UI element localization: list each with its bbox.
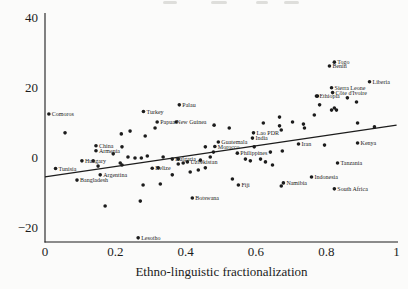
country-label: Belize [155, 165, 171, 171]
country-label: Papua New Guinea [160, 119, 207, 125]
data-point [204, 145, 208, 149]
country-label: Fiji [241, 182, 250, 188]
country-label: Iran [302, 141, 312, 147]
data-point [75, 178, 79, 182]
data-point [96, 164, 100, 168]
data-point [191, 196, 195, 200]
x-tick-label: 0 [42, 244, 49, 259]
data-point [278, 124, 282, 128]
data-point [236, 151, 240, 155]
country-label: Turkey [146, 109, 163, 115]
country-label: South Africa [337, 186, 368, 192]
data-point [373, 125, 377, 129]
data-point [136, 236, 140, 240]
data-point [176, 162, 180, 166]
data-point [118, 161, 122, 165]
data-point [178, 103, 182, 107]
data-point [212, 123, 216, 127]
data-point [368, 80, 372, 84]
country-label: Lao PDR [256, 130, 279, 136]
data-point [262, 121, 266, 125]
y-tick-label: −20 [18, 220, 38, 235]
data-point [153, 126, 157, 130]
data-point [291, 120, 295, 124]
country-label: Liberia [373, 79, 391, 85]
data-point [142, 110, 146, 114]
data-point [138, 199, 142, 203]
data-point [231, 177, 235, 181]
data-point [259, 157, 263, 161]
data-point [355, 100, 359, 104]
data-point [333, 187, 337, 191]
plot-area: 40200−2000.20.40.60.81ComorosTunisiaBang… [0, 0, 408, 289]
x-tick-label: 0.2 [107, 244, 123, 259]
data-point [159, 182, 163, 186]
data-point [279, 184, 283, 188]
country-label: Palau [182, 102, 195, 108]
data-point [146, 154, 150, 158]
country-label: Tanzania [341, 160, 363, 166]
x-axis-title: Ethno-linguistic fractionalization [45, 264, 398, 280]
country-label: Philippines [240, 150, 268, 156]
data-point [336, 161, 340, 165]
country-label: Argentina [103, 172, 127, 178]
country-label: Tunisia [59, 166, 77, 172]
data-point [161, 155, 165, 159]
data-point [331, 91, 335, 95]
data-point [278, 115, 282, 119]
data-point [356, 121, 360, 125]
data-point [269, 150, 273, 154]
country-label: Armenia [99, 148, 120, 154]
data-point [303, 126, 307, 130]
data-point [119, 132, 123, 136]
data-point [128, 129, 132, 133]
data-point [318, 103, 322, 107]
data-point [141, 183, 145, 187]
data-point [282, 181, 286, 185]
data-point [186, 160, 190, 164]
country-label: Namibia [286, 180, 307, 186]
y-tick-label: 0 [32, 150, 39, 165]
data-point [155, 120, 159, 124]
data-point [264, 160, 268, 164]
data-point [120, 145, 124, 149]
country-label: Bangladesh [80, 177, 108, 183]
data-point [150, 166, 154, 170]
y-tick-label: 20 [25, 80, 38, 95]
data-point [335, 108, 339, 112]
data-point [196, 168, 200, 172]
x-tick-label: 0.8 [318, 244, 334, 259]
data-point [313, 113, 317, 117]
country-label: Guatemala [221, 139, 247, 145]
data-point [302, 122, 306, 126]
data-point [204, 166, 208, 170]
data-point [237, 183, 241, 187]
country-label: Togo [337, 59, 349, 65]
data-point [346, 96, 350, 100]
data-point [170, 173, 174, 177]
country-label: Indonesia [315, 174, 339, 180]
data-point [63, 131, 67, 135]
data-point [98, 173, 102, 177]
y-tick-label: 40 [25, 10, 38, 25]
data-point [94, 149, 98, 153]
data-point [323, 143, 327, 147]
data-point [297, 142, 301, 146]
data-point [330, 86, 334, 90]
data-point [310, 175, 314, 179]
data-point [227, 126, 231, 130]
data-point [54, 167, 58, 171]
data-point [126, 155, 130, 159]
data-point [80, 159, 84, 163]
data-point [143, 134, 147, 138]
data-point [94, 144, 98, 148]
data-point [217, 140, 221, 144]
data-point [356, 141, 360, 145]
data-point [252, 131, 256, 135]
data-point [213, 145, 217, 149]
country-label: Côte d'Ivoire [336, 90, 368, 96]
country-label: Lesotho [141, 235, 160, 241]
x-tick-label: 0.6 [248, 244, 265, 259]
data-point [330, 108, 334, 112]
data-point [271, 163, 275, 167]
